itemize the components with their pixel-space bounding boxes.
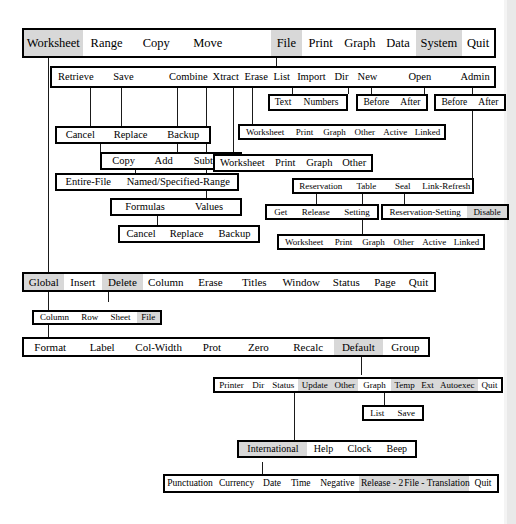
save-menu-bar[interactable]: CancelReplaceBackup	[55, 126, 211, 144]
menu-item-after[interactable]: After	[473, 96, 504, 109]
menu-item-clock[interactable]: Clock	[340, 442, 378, 456]
menu-item-values[interactable]: Values	[178, 200, 240, 214]
menu-item-dir[interactable]: Dir	[248, 379, 268, 391]
dir-new-menu-bar[interactable]: BeforeAfter	[356, 94, 428, 111]
menu-item-backup[interactable]: Backup	[158, 128, 209, 142]
menu-item-delete[interactable]: Delete	[102, 274, 142, 290]
menu-item-temp[interactable]: Temp	[391, 379, 419, 391]
worksheet-menu-bar[interactable]: GlobalInsertDeleteColumnEraseTitlesWindo…	[22, 272, 436, 292]
menu-item-col-width[interactable]: Col-Width	[128, 339, 189, 355]
menu-item-graph[interactable]: Graph	[301, 156, 337, 170]
menu-item-data[interactable]: Data	[380, 30, 416, 56]
xtract-menu-bar[interactable]: FormulasValues	[110, 198, 242, 216]
menu-item-quit[interactable]: Quit	[469, 476, 497, 491]
menu-item-other[interactable]: Other	[331, 379, 358, 391]
menu-item-global[interactable]: Global	[24, 274, 64, 290]
file-menu-bar[interactable]: RetrieveSaveCombineXtractEraseListImport…	[50, 66, 496, 88]
menu-item-cancel[interactable]: Cancel	[120, 227, 162, 241]
menu-item-page[interactable]: Page	[367, 274, 403, 290]
menu-item-copy[interactable]: Copy	[131, 30, 182, 56]
menu-item-release-2[interactable]: Release - 2	[359, 476, 404, 491]
global-menu-bar[interactable]: FormatLabelCol-WidthProtZeroRecalcDefaul…	[22, 337, 430, 357]
menu-item-range[interactable]: Range	[83, 30, 131, 56]
menu-item-xtract[interactable]: Xtract	[210, 68, 242, 86]
menu-item-list[interactable]: List	[271, 68, 293, 86]
menu-item-recalc[interactable]: Recalc	[282, 339, 334, 355]
menu-item-insert[interactable]: Insert	[64, 274, 103, 290]
menu-item-label[interactable]: Label	[76, 339, 128, 355]
menu-item-combine[interactable]: Combine	[167, 68, 210, 86]
menu-item-get[interactable]: Get	[267, 206, 295, 218]
menu-item-before[interactable]: Before	[436, 96, 473, 109]
menu-item-open[interactable]: Open	[402, 68, 438, 86]
import-menu-bar[interactable]: TextNumbers	[268, 94, 348, 111]
list-menu-bar[interactable]: WorksheetPrintGraphOtherActiveLinked	[238, 124, 446, 140]
reservation-menu-bar[interactable]: GetReleaseSetting	[265, 204, 379, 220]
menu-item-entire-file[interactable]: Entire-File	[57, 175, 120, 189]
menu-item-erase[interactable]: Erase	[242, 68, 271, 86]
table-menu-bar[interactable]: WorksheetPrintGraphOtherActiveLinked	[277, 234, 485, 250]
menu-item-ext[interactable]: Ext	[419, 379, 437, 391]
menu-item-seal[interactable]: Seal	[385, 180, 420, 192]
menu-item-release[interactable]: Release	[295, 206, 338, 218]
menu-item-date[interactable]: Date	[258, 476, 286, 491]
menu-item-currency[interactable]: Currency	[215, 476, 258, 491]
menu-item-replace[interactable]: Replace	[103, 128, 157, 142]
menu-item-time[interactable]: Time	[286, 476, 315, 491]
menu-item-list[interactable]: List	[364, 407, 390, 419]
menu-item-retrieve[interactable]: Retrieve	[52, 68, 100, 86]
menu-item-print[interactable]: Print	[270, 156, 302, 170]
menu-item-graph[interactable]: Graph	[358, 236, 389, 248]
main-menu-bar[interactable]: WorksheetRangeCopyMoveFilePrintGraphData…	[22, 28, 496, 58]
menu-item-quit[interactable]: Quit	[403, 274, 434, 290]
menu-item-active[interactable]: Active	[379, 126, 410, 138]
menu-item-status[interactable]: Status	[326, 274, 367, 290]
menu-item-quit[interactable]: Quit	[478, 379, 501, 391]
menu-item-zero[interactable]: Zero	[235, 339, 283, 355]
menu-item-reservation-setting[interactable]: Reservation-Setting	[383, 206, 467, 218]
menu-item-quit[interactable]: Quit	[462, 30, 494, 56]
menu-item-other[interactable]: Other	[350, 126, 379, 138]
menu-item-copy[interactable]: Copy	[102, 154, 145, 168]
menu-item-link-refresh[interactable]: Link-Refresh	[420, 180, 472, 192]
menu-item-punctuation[interactable]: Punctuation	[165, 476, 215, 491]
menu-item-help[interactable]: Help	[307, 442, 340, 456]
menu-item-after[interactable]: After	[395, 96, 426, 109]
menu-item-negative[interactable]: Negative	[315, 476, 359, 491]
menu-item-other[interactable]: Other	[337, 156, 371, 170]
menu-item-print[interactable]: Print	[302, 30, 339, 56]
menu-item-named-specified-range[interactable]: Named/Specified-Range	[120, 175, 237, 189]
other-menu-bar[interactable]: InternationalHelpClockBeep	[237, 440, 417, 458]
menu-item-group[interactable]: Group	[383, 339, 428, 355]
menu-item-numbers[interactable]: Numbers	[296, 96, 346, 109]
menu-item-print[interactable]: Print	[329, 236, 357, 248]
menu-item-admin[interactable]: Admin	[456, 68, 494, 86]
menu-item-column[interactable]: Column	[143, 274, 189, 290]
combine-type-menu-bar[interactable]: Entire-FileNamed/Specified-Range	[55, 173, 239, 191]
menu-item-save[interactable]: Save	[100, 68, 148, 86]
menu-item-import[interactable]: Import	[293, 68, 330, 86]
menu-item-update[interactable]: Update	[298, 379, 331, 391]
menu-item-before[interactable]: Before	[358, 96, 395, 109]
menu-item-add[interactable]: Add	[145, 154, 182, 168]
menu-item-linked[interactable]: Linked	[450, 236, 483, 248]
menu-item-default[interactable]: Default	[334, 339, 383, 355]
seal-menu-bar[interactable]: Reservation-SettingDisable	[381, 204, 509, 220]
menu-item-setting[interactable]: Setting	[337, 206, 377, 218]
menu-item-print[interactable]: Print	[290, 126, 318, 138]
menu-item-column[interactable]: Column	[34, 312, 75, 323]
menu-item-system[interactable]: System	[416, 30, 462, 56]
menu-item-save[interactable]: Save	[390, 407, 422, 419]
menu-item-worksheet[interactable]: Worksheet	[24, 30, 83, 56]
menu-item-disable[interactable]: Disable	[467, 206, 507, 218]
menu-item-prot[interactable]: Prot	[189, 339, 234, 355]
menu-item-file[interactable]: File	[271, 30, 302, 56]
menu-item-other[interactable]: Other	[389, 236, 418, 248]
menu-item-move[interactable]: Move	[182, 30, 233, 56]
menu-item-cancel[interactable]: Cancel	[57, 128, 103, 142]
menu-item-dir[interactable]: Dir	[330, 68, 353, 86]
menu-item-graph[interactable]: Graph	[339, 30, 380, 56]
menu-item-status[interactable]: Status	[269, 379, 299, 391]
menu-item-graph[interactable]: Graph	[319, 126, 350, 138]
menu-item-new[interactable]: New	[353, 68, 382, 86]
